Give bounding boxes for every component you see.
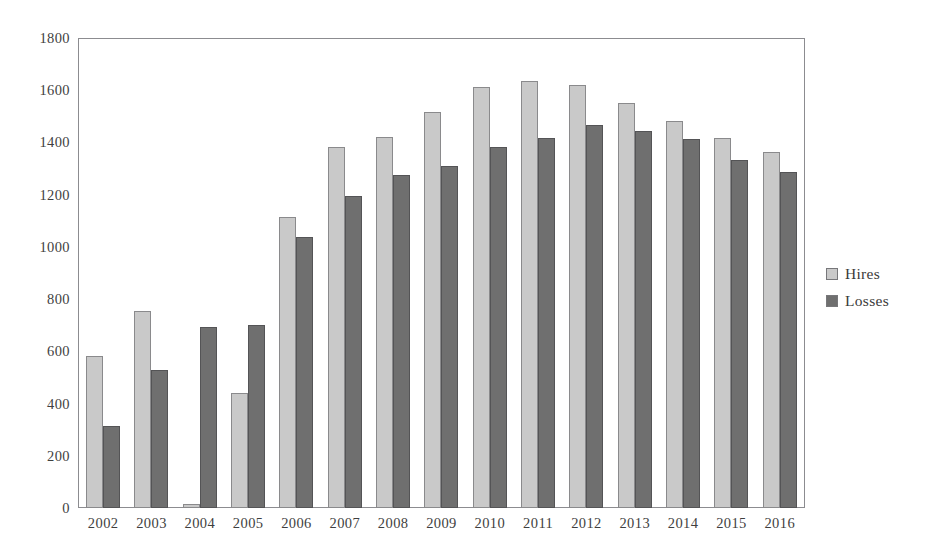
bar-hires-2007[interactable] (328, 147, 345, 508)
bar-hires-2013[interactable] (618, 103, 635, 508)
legend-item-label: Hires (845, 265, 880, 283)
legend-swatch-icon (826, 295, 838, 307)
x-axis-tick-label: 2015 (707, 515, 755, 541)
x-axis-tick-label: 2011 (514, 515, 562, 541)
bar-hires-2009[interactable] (424, 112, 441, 508)
bar-losses-2015[interactable] (731, 160, 748, 508)
y-axis-tick-label: 1400 (39, 134, 70, 151)
bar-group (514, 39, 562, 508)
bar-chart: 180016001400120010008006004002000 200220… (0, 0, 940, 559)
x-axis-tick-label: 2002 (79, 515, 127, 541)
bar-losses-2011[interactable] (538, 138, 555, 508)
bar-losses-2013[interactable] (635, 131, 652, 508)
legend-item-label: Losses (845, 292, 889, 310)
legend-item-losses[interactable]: Losses (826, 292, 936, 310)
bar-group (224, 39, 272, 508)
x-axis-tick-label: 2004 (176, 515, 224, 541)
bar-group (756, 39, 804, 508)
bar-hires-2004[interactable] (183, 504, 200, 508)
x-axis-tick-label: 2016 (756, 515, 804, 541)
bar-group (176, 39, 224, 508)
legend-swatch-icon (826, 268, 838, 280)
legend-item-hires[interactable]: Hires (826, 265, 936, 283)
y-axis: 180016001400120010008006004002000 (0, 38, 70, 508)
bar-losses-2005[interactable] (248, 325, 265, 508)
bar-losses-2007[interactable] (345, 196, 362, 508)
bar-group (321, 39, 369, 508)
bar-losses-2003[interactable] (151, 370, 168, 508)
x-axis-tick-label: 2008 (369, 515, 417, 541)
bar-losses-2002[interactable] (103, 426, 120, 508)
bar-losses-2008[interactable] (393, 175, 410, 508)
y-axis-tick-label: 1000 (39, 238, 70, 255)
y-axis-tick-label: 400 (47, 395, 70, 412)
bar-hires-2010[interactable] (473, 87, 490, 508)
bar-losses-2004[interactable] (200, 327, 217, 508)
y-axis-tick-label: 200 (47, 447, 70, 464)
bar-hires-2015[interactable] (714, 138, 731, 508)
y-axis-tick-label: 1800 (39, 30, 70, 47)
x-axis: 2002200320042005200620072008200920102011… (79, 515, 804, 541)
y-axis-tick-label: 600 (47, 343, 70, 360)
bar-hires-2012[interactable] (569, 85, 586, 508)
x-axis-tick-label: 2003 (127, 515, 175, 541)
x-axis-tick-label: 2007 (321, 515, 369, 541)
x-axis-tick-label: 2009 (417, 515, 465, 541)
bar-hires-2003[interactable] (134, 311, 151, 508)
bar-losses-2012[interactable] (586, 125, 603, 508)
x-axis-tick-label: 2012 (562, 515, 610, 541)
bar-hires-2006[interactable] (279, 217, 296, 508)
bar-losses-2010[interactable] (490, 147, 507, 508)
bar-hires-2008[interactable] (376, 137, 393, 508)
legend: HiresLosses (826, 265, 936, 319)
bar-losses-2016[interactable] (780, 172, 797, 508)
y-axis-tick-label: 0 (62, 500, 70, 517)
bar-losses-2009[interactable] (441, 166, 458, 508)
bar-hires-2016[interactable] (763, 152, 780, 508)
bar-hires-2005[interactable] (231, 393, 248, 508)
y-axis-tick-label: 1600 (39, 82, 70, 99)
bar-hires-2011[interactable] (521, 81, 538, 508)
bar-group (417, 39, 465, 508)
plot-area (79, 39, 804, 508)
bar-group (611, 39, 659, 508)
bar-group (466, 39, 514, 508)
bar-group (562, 39, 610, 508)
bar-group (79, 39, 127, 508)
x-axis-tick-label: 2006 (272, 515, 320, 541)
y-axis-tick-label: 800 (47, 291, 70, 308)
bar-group (707, 39, 755, 508)
x-axis-tick-label: 2013 (611, 515, 659, 541)
bar-losses-2006[interactable] (296, 237, 313, 508)
bar-hires-2014[interactable] (666, 121, 683, 508)
bar-group (272, 39, 320, 508)
x-axis-tick-label: 2014 (659, 515, 707, 541)
x-axis-tick-label: 2005 (224, 515, 272, 541)
bar-group (659, 39, 707, 508)
bar-group (127, 39, 175, 508)
y-axis-tick-label: 1200 (39, 186, 70, 203)
x-axis-tick-label: 2010 (466, 515, 514, 541)
bar-hires-2002[interactable] (86, 356, 103, 508)
bar-losses-2014[interactable] (683, 139, 700, 508)
bar-group (369, 39, 417, 508)
